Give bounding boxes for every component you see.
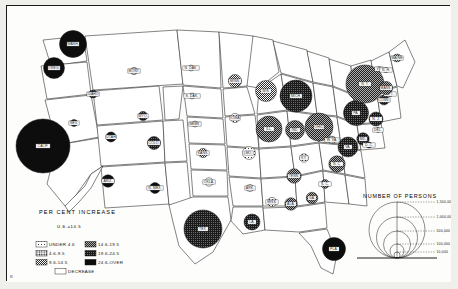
state-label: OREG.	[48, 66, 59, 70]
state-label: MASS.	[380, 86, 391, 90]
state-label: IND.	[291, 128, 298, 132]
state-symbol: PA.	[344, 101, 369, 126]
state-symbol: KY.	[300, 154, 308, 162]
state-label: MINN.	[230, 79, 240, 83]
state-label: W. VA.	[327, 138, 338, 142]
state-label: OHIO	[314, 125, 323, 129]
state-symbol: ALA.	[285, 198, 297, 210]
state-symbol: N. H.	[380, 67, 392, 72]
state-label: PA.	[353, 111, 359, 115]
state-label: LA.	[249, 220, 254, 224]
persons-value-label: 10,000	[437, 250, 449, 254]
state-label: CALIF.	[38, 144, 49, 148]
legend-label: 19.6-24.5	[98, 251, 120, 256]
legend-label: UNDER 4.6	[49, 242, 75, 247]
state-label: MO.	[246, 151, 253, 155]
legend-swatch	[36, 241, 47, 247]
state-symbol: MINN.	[229, 75, 242, 88]
state-label: KY.	[301, 156, 306, 160]
state-symbol: OREG.	[44, 58, 65, 79]
state-symbol: WYO.	[138, 111, 148, 120]
state-symbol: WASH.	[60, 31, 87, 58]
legend-label: 9.6-14.5	[49, 260, 68, 265]
state-label: ARIZ.	[103, 179, 112, 183]
persons-legend-title: NUMBER OF PERSONS	[363, 193, 437, 199]
state-label: D. C.	[365, 143, 373, 147]
state-symbol: TEX.	[184, 210, 222, 248]
state-label: MAINE	[391, 56, 403, 60]
state-symbol: UTAH	[106, 132, 116, 142]
state-symbol: N. J.	[369, 112, 383, 126]
state-symbol: TENN.	[287, 169, 301, 183]
state-label: CONN.	[378, 98, 389, 102]
state-symbol: IND.	[286, 121, 305, 140]
state-symbol: DEL.	[373, 128, 383, 133]
state-symbol: WIS.	[256, 81, 277, 102]
state-symbol: GA.	[306, 192, 318, 204]
state-label: ILL.	[266, 127, 272, 131]
legend-subtitle: U.S.=14.5	[57, 224, 81, 229]
legend-label: 24.6-OVER	[98, 260, 123, 265]
state-symbol: ILL.	[256, 116, 282, 142]
state-label: DEL.	[374, 128, 382, 132]
persons-value-label: 1,500,000	[437, 200, 452, 204]
state-label: GA.	[309, 196, 315, 200]
state-label: N. DAK.	[185, 66, 198, 70]
state-label: N. H.	[382, 68, 390, 72]
state-label: N. C.	[333, 162, 341, 166]
legend-swatch	[85, 241, 96, 247]
state-symbol: N. C.	[329, 156, 345, 172]
state-label: MISS.	[267, 200, 277, 204]
state-label: ARK.	[246, 186, 254, 190]
state-label: NEV.	[70, 121, 78, 125]
state-label: NEBR.	[190, 122, 201, 126]
state-label: MICH.	[291, 94, 301, 98]
state-symbol: LA.	[244, 214, 260, 230]
state-symbol: FLA.	[323, 238, 346, 261]
state-symbol: MASS.	[379, 81, 392, 94]
legend-label: DECREASE	[68, 269, 95, 274]
state-symbol: D. C.	[363, 142, 375, 148]
state-label: WASH.	[67, 42, 79, 46]
legend-label: 14.6-19.5	[98, 242, 120, 247]
state-label: KANS.	[198, 151, 209, 155]
state-symbol: OHIO	[305, 113, 333, 141]
us-population-map: WASH.OREG.CALIF.IDAHOMONT.WYO.NEV.UTAHCO…	[7, 6, 451, 282]
state-label: WYO.	[138, 114, 147, 118]
legend-swatch	[36, 250, 47, 256]
state-symbol: MO.	[243, 147, 256, 160]
state-symbol: CALIF.	[16, 119, 70, 173]
legend-swatch	[36, 259, 47, 265]
state-label: TEX.	[199, 227, 207, 231]
persons-value-label: 1,000,000	[437, 215, 452, 219]
state-label: ALA.	[287, 202, 295, 206]
legend-item: UNDER 4.6	[36, 241, 75, 247]
legend-item: 14.6-19.5	[85, 241, 120, 247]
state-label: FLA.	[330, 247, 338, 251]
state-label: MONT.	[128, 69, 139, 73]
legend-item: 24.6-OVER	[85, 259, 123, 265]
legend-item: 19.6-24.5	[85, 250, 120, 256]
map-stage: WASH.OREG.CALIF.IDAHOMONT.WYO.NEV.UTAHCO…	[7, 6, 449, 280]
state-label: S. DAK.	[186, 94, 199, 98]
state-label: S. C.	[321, 182, 329, 186]
legend-swatch	[85, 259, 96, 265]
state-symbol: S. DAK.	[184, 93, 200, 99]
state-label: COLO.	[148, 141, 159, 145]
corner-mark: III	[10, 275, 13, 279]
persons-value-label: 100,000	[437, 242, 451, 246]
legend-item: 4.6-9.5	[36, 250, 65, 256]
state-label: VA.	[345, 145, 351, 149]
state-label: OKLA.	[204, 180, 215, 184]
map-frame: WASH.OREG.CALIF.IDAHOMONT.WYO.NEV.UTAHCO…	[6, 5, 450, 281]
legend-label: 4.6-9.5	[49, 251, 65, 256]
state-symbol: ARIZ.	[102, 175, 114, 187]
legend-swatch	[85, 250, 96, 256]
state-label: N. J.	[372, 117, 379, 121]
state-symbol: N. DAK.	[183, 65, 199, 71]
legend-swatch	[55, 268, 66, 274]
legend-item: 9.6-14.5	[36, 259, 68, 265]
state-symbol: NEBR.	[189, 121, 201, 127]
screenshot-root: WASH.OREG.CALIF.IDAHOMONT.WYO.NEV.UTAHCO…	[0, 0, 458, 289]
legend-item: DECREASE	[55, 268, 95, 274]
